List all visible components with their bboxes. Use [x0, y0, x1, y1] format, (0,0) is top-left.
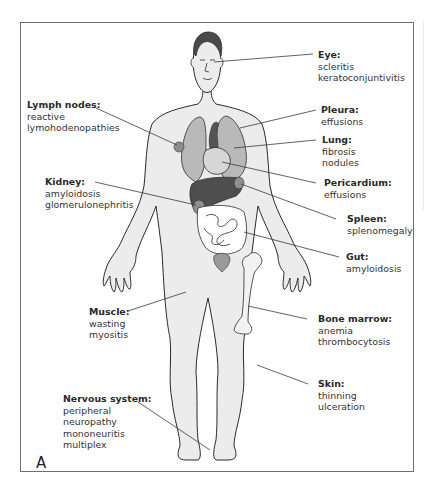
annotation-item: effusions	[321, 116, 363, 128]
annotation-kidney: Kidney: amyloidosis glomerulonephritis	[45, 176, 134, 211]
annotation-item: ulceration	[318, 401, 365, 413]
annotation-item: lymohodenopathies	[27, 122, 120, 134]
annotation-item: wasting	[89, 318, 129, 330]
annotation-bone-marrow: Bone marrow: anemia thrombocytosis	[318, 313, 392, 348]
annotation-item: glomerulonephritis	[45, 199, 134, 211]
annotation-title: Skin:	[318, 378, 365, 390]
annotation-title: Kidney:	[45, 176, 134, 188]
annotation-item: amyloidosis	[346, 263, 401, 275]
annotation-item: keratoconjuntivitis	[318, 72, 405, 84]
annotation-title: Pericardium:	[324, 177, 392, 189]
annotation-gut: Gut: amyloidosis	[346, 251, 401, 274]
annotation-title: Pleura:	[321, 104, 363, 116]
annotation-title: Eye:	[318, 49, 405, 61]
annotation-title: Lymph nodes:	[27, 99, 120, 111]
annotation-item: thrombocytosis	[318, 336, 392, 348]
annotation-lung: Lung: fibrosis nodules	[322, 134, 359, 169]
heart	[203, 147, 230, 174]
spleen	[234, 177, 244, 189]
leader-eye	[214, 54, 313, 62]
annotation-item: splenomegaly	[347, 225, 413, 237]
annotation-muscle: Muscle: wasting myositis	[89, 306, 129, 341]
annotation-item: myositis	[89, 329, 129, 341]
annotation-item: amyloidosis	[45, 188, 134, 200]
annotation-title: Bone marrow:	[318, 313, 392, 325]
annotation-item: mononeuritis	[63, 428, 152, 440]
leader-bone-marrow	[248, 306, 307, 319]
annotation-lymph-nodes: Lymph nodes: reactive lymohodenopathies	[27, 99, 120, 134]
annotation-item: nodules	[322, 157, 359, 169]
annotation-pericardium: Pericardium: effusions	[324, 177, 392, 200]
leader-skin	[257, 365, 308, 384]
annotation-item: thinning	[318, 390, 365, 402]
panel-label: A	[36, 454, 46, 472]
annotation-item: multiplex	[63, 439, 152, 451]
annotation-item: reactive	[27, 111, 120, 123]
lymph-node	[174, 142, 184, 152]
annotation-item: anemia	[318, 325, 392, 337]
annotation-pleura: Pleura: effusions	[321, 104, 363, 127]
annotation-item: fibrosis	[322, 146, 359, 158]
annotation-item: effusions	[324, 189, 392, 201]
annotation-title: Muscle:	[89, 306, 129, 318]
annotation-spleen: Spleen: splenomegaly	[347, 213, 413, 236]
annotation-title: Gut:	[346, 251, 401, 263]
annotation-title: Nervous system:	[63, 393, 152, 405]
annotation-nervous-system: Nervous system: peripheral neuropathy mo…	[63, 393, 152, 451]
annotation-item: peripheral	[63, 405, 152, 417]
annotation-skin: Skin: thinning ulceration	[318, 378, 365, 413]
annotation-item: scleritis	[318, 61, 405, 73]
annotation-eye: Eye: scleritis keratoconjuntivitis	[318, 49, 405, 84]
annotation-item: neuropathy	[63, 416, 152, 428]
annotation-title: Spleen:	[347, 213, 413, 225]
annotation-title: Lung:	[322, 134, 359, 146]
